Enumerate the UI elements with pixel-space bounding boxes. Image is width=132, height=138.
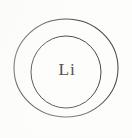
atom-shell-diagram: Li: [0, 0, 132, 138]
atom-diagram-canvas: Li: [0, 0, 132, 138]
nucleus-element-symbol-label: Li: [59, 59, 76, 79]
